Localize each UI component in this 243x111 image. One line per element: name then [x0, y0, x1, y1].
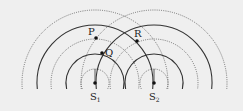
point-markers [93, 36, 156, 85]
point-dot-q [100, 51, 104, 55]
point-dot-p [94, 36, 98, 40]
label-s1: S1 [90, 91, 101, 103]
source-dot-s1 [93, 81, 97, 85]
wavefront-arcs [22, 10, 227, 89]
label-q: Q [105, 47, 113, 58]
label-r: R [134, 28, 142, 39]
interference-diagram: P Q R S1 S2 [0, 0, 243, 111]
source-dot-s2 [152, 81, 156, 85]
label-p: P [88, 26, 95, 37]
label-s2: S2 [149, 91, 160, 103]
point-dot-r [135, 39, 139, 43]
